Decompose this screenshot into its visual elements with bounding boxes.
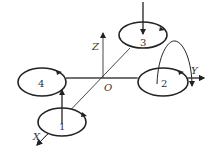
rotor-1: 1 (38, 90, 87, 136)
origin-label: O (104, 82, 112, 93)
rotor-2: 2 (138, 41, 192, 96)
rotor-2-label: 2 (161, 78, 167, 89)
rotor-3-label: 3 (140, 37, 146, 48)
rotor-4: 4 (18, 68, 66, 96)
quadrotor-diagram: 3 4 2 1 Z Y X O (0, 0, 212, 158)
y-axis-label: Y (191, 65, 199, 76)
x-axis-label: X (32, 131, 41, 142)
z-axis-label: Z (91, 41, 100, 52)
rotor-4-label: 4 (38, 78, 44, 89)
rotor-3: 3 (119, 2, 167, 48)
rotation-arrow-icon (81, 112, 87, 117)
rotor-1-label: 1 (59, 121, 65, 132)
